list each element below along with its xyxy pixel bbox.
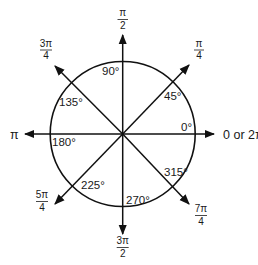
svg-text:3π: 3π bbox=[116, 235, 129, 246]
svg-text:7π: 7π bbox=[195, 203, 208, 214]
svg-text:2: 2 bbox=[120, 248, 126, 259]
svg-text:4: 4 bbox=[39, 202, 45, 213]
radian-label-315: 7π 4 bbox=[195, 203, 208, 227]
degree-label-0: 0° bbox=[181, 121, 192, 133]
degree-label-225: 225° bbox=[81, 179, 105, 191]
radian-label-45: π 4 bbox=[194, 38, 204, 61]
radian-label-225: 5π 4 bbox=[36, 189, 49, 213]
radian-label-135: 3π 4 bbox=[40, 38, 53, 61]
degree-label-135: 135° bbox=[59, 96, 83, 108]
svg-text:π: π bbox=[196, 38, 203, 49]
svg-text:4: 4 bbox=[43, 50, 49, 61]
radian-label-0: 0 or 2π bbox=[223, 128, 258, 142]
degree-label-180: 180° bbox=[52, 136, 76, 148]
degree-label-45: 45° bbox=[164, 90, 181, 102]
radian-label-180: π bbox=[10, 128, 19, 142]
svg-text:5π: 5π bbox=[36, 189, 49, 200]
degree-label-270: 270° bbox=[126, 194, 150, 206]
radian-label-90: π 2 bbox=[118, 7, 129, 31]
svg-text:2: 2 bbox=[120, 20, 126, 31]
degree-label-315: 315° bbox=[164, 166, 188, 178]
degree-label-90: 90° bbox=[102, 65, 119, 77]
diagram-canvas: 0° 45° 90° 135° 180° 225° 270° 315° 0 or… bbox=[0, 0, 258, 265]
svg-text:π: π bbox=[119, 7, 126, 18]
svg-text:4: 4 bbox=[198, 216, 204, 227]
radian-label-270: 3π 2 bbox=[116, 235, 129, 259]
svg-text:4: 4 bbox=[196, 50, 202, 61]
svg-text:3π: 3π bbox=[40, 38, 53, 49]
unit-circle-diagram: 0° 45° 90° 135° 180° 225° 270° 315° 0 or… bbox=[0, 0, 258, 265]
